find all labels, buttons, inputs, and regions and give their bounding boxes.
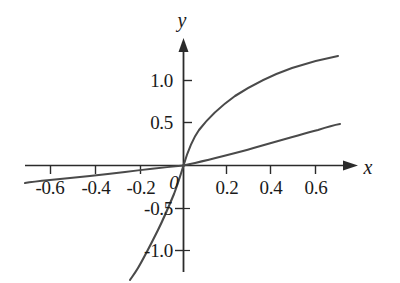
x-tick-label--0.4: -0.4	[82, 177, 112, 198]
y-tick-label-1.0: 1.0	[150, 70, 173, 91]
x-tick-label-0.2: 0.2	[216, 177, 239, 198]
x-tick-label-0.4: 0.4	[260, 177, 284, 198]
x-tick-label-0.6: 0.6	[305, 177, 328, 198]
chart-figure: -0.6 -0.4 -0.2 0.2 0.4 0.6 1.0 0.5 -0.5 …	[0, 0, 400, 283]
chart-background	[0, 0, 400, 283]
chart-canvas: -0.6 -0.4 -0.2 0.2 0.4 0.6 1.0 0.5 -0.5 …	[0, 0, 400, 283]
x-tick-label--0.2: -0.2	[127, 177, 156, 198]
x-axis-label: x	[363, 156, 373, 178]
y-tick-label-0.5: 0.5	[150, 112, 173, 133]
origin-label: 0	[169, 172, 179, 193]
x-tick-label--0.6: -0.6	[36, 177, 65, 198]
y-tick-label--0.5: -0.5	[144, 198, 173, 219]
y-axis-label: y	[176, 9, 187, 32]
y-tick-label--1.0: -1.0	[144, 240, 173, 261]
